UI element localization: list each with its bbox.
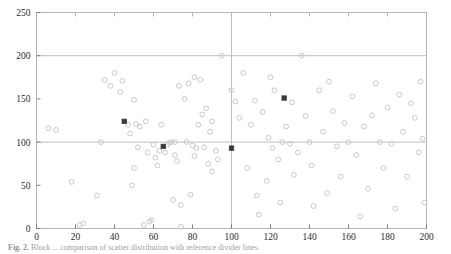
x-tick-label: 120 xyxy=(263,232,278,242)
data-point xyxy=(254,193,259,198)
data-point xyxy=(393,206,398,211)
data-point xyxy=(132,97,137,102)
data-point xyxy=(278,200,283,205)
data-point xyxy=(175,159,180,164)
data-point xyxy=(159,122,164,127)
data-point xyxy=(282,96,286,100)
data-point xyxy=(309,163,314,168)
data-point xyxy=(46,126,51,131)
data-point xyxy=(270,146,275,151)
x-tick-label: 0 xyxy=(34,232,39,242)
data-point xyxy=(173,153,178,158)
data-point xyxy=(69,179,74,184)
data-point xyxy=(295,150,300,155)
data-point xyxy=(385,105,390,110)
data-point xyxy=(416,150,421,155)
data-point xyxy=(266,135,271,140)
data-point xyxy=(171,198,176,203)
data-point xyxy=(317,88,322,93)
x-tick-label: 20 xyxy=(71,232,81,242)
scatter-plot: 0204060801001201401601802000501001502002… xyxy=(0,0,451,254)
data-point xyxy=(95,193,100,198)
data-point xyxy=(245,166,250,171)
data-point xyxy=(358,214,363,219)
data-point xyxy=(120,78,125,83)
figure-caption: Fig. 2. Block ... comparison of scatter … xyxy=(8,243,444,253)
data-point xyxy=(178,203,183,208)
data-point xyxy=(249,122,254,127)
data-point xyxy=(233,99,238,104)
data-point xyxy=(155,163,160,168)
data-point xyxy=(128,131,133,136)
data-point xyxy=(284,124,289,129)
data-point xyxy=(409,101,414,106)
x-tick-label: 180 xyxy=(380,232,395,242)
data-point xyxy=(141,223,146,228)
figure-container: 0204060801001201401601802000501001502002… xyxy=(0,0,451,254)
data-point xyxy=(264,179,269,184)
data-point xyxy=(122,119,126,123)
data-point xyxy=(130,183,135,188)
data-point xyxy=(182,97,187,102)
caption-label: Fig. 2. xyxy=(8,243,29,252)
data-point xyxy=(208,129,213,134)
data-point xyxy=(186,81,191,86)
data-point xyxy=(260,109,265,114)
data-point xyxy=(198,77,203,82)
data-point xyxy=(200,112,205,117)
x-tick-label: 80 xyxy=(188,232,198,242)
data-point xyxy=(350,94,355,99)
data-point xyxy=(153,155,158,160)
data-point xyxy=(204,106,209,111)
x-tick-label: 140 xyxy=(302,232,317,242)
data-point xyxy=(373,81,378,86)
data-point xyxy=(325,191,330,196)
caption-text: Block ... comparison of scatter distribu… xyxy=(31,243,260,252)
y-tick-label: 0 xyxy=(26,224,31,234)
data-point xyxy=(272,88,277,93)
data-point xyxy=(102,77,107,82)
y-tick-label: 150 xyxy=(16,94,31,104)
data-point xyxy=(137,124,142,129)
data-point xyxy=(276,157,281,162)
data-point xyxy=(112,71,117,76)
data-point xyxy=(151,142,156,147)
y-tick-label: 100 xyxy=(16,138,31,148)
data-point xyxy=(366,186,371,191)
data-point xyxy=(215,157,220,162)
data-point xyxy=(311,204,316,209)
data-point xyxy=(143,119,148,124)
data-point xyxy=(192,154,197,159)
data-point xyxy=(229,146,233,150)
data-point xyxy=(418,79,423,84)
data-point xyxy=(237,116,242,121)
x-tick-label: 160 xyxy=(341,232,356,242)
data-point xyxy=(161,144,165,148)
data-point xyxy=(362,124,367,129)
series-open-markers xyxy=(46,53,427,229)
data-point xyxy=(268,75,273,80)
data-point xyxy=(54,128,59,133)
data-point xyxy=(202,145,207,150)
data-point xyxy=(136,145,141,150)
data-point xyxy=(206,161,211,166)
data-point xyxy=(334,144,339,149)
data-point xyxy=(163,150,168,155)
data-point xyxy=(192,75,197,80)
x-tick-label: 40 xyxy=(110,232,120,242)
data-point xyxy=(241,71,246,76)
data-point xyxy=(331,109,336,114)
data-point xyxy=(327,79,332,84)
data-point xyxy=(176,84,181,89)
data-point xyxy=(118,90,123,95)
data-point xyxy=(342,121,347,126)
data-point xyxy=(420,136,425,141)
data-point xyxy=(157,148,162,153)
data-point xyxy=(210,169,215,174)
data-point xyxy=(196,122,201,127)
data-point xyxy=(210,119,215,124)
x-tick-label: 60 xyxy=(149,232,159,242)
data-point xyxy=(338,174,343,179)
data-point xyxy=(253,98,258,103)
data-point xyxy=(303,114,308,119)
